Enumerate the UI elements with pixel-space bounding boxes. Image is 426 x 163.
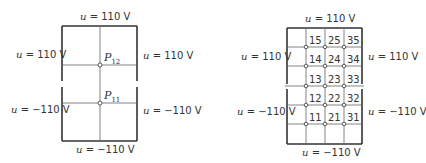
node-label: 32 [347,93,360,104]
node-label: 35 [347,35,360,46]
node-label: 12 [309,93,322,104]
point-p11-marker [98,101,102,105]
right-lower-voltage-label: u = −110 V [368,106,426,117]
left-diagram: P12 P11 u = 110 V u = −110 V u = 110 V u… [0,0,213,163]
node-label: 13 [309,74,322,85]
top-voltage-label: u = 110 V [305,13,355,24]
left-diagram-svg: P12 P11 u = 110 V u = −110 V u = 110 V u… [0,0,213,163]
left-lower-voltage-label: u = −110 V [11,104,70,115]
right-diagram: 15 25 35 14 24 34 13 23 33 12 22 32 11 2… [213,0,426,163]
node-label: 21 [328,112,341,123]
right-diagram-svg: 15 25 35 14 24 34 13 23 33 12 22 32 11 2… [213,0,426,163]
node-label: 25 [328,35,341,46]
grid-node-labels: 15 25 35 14 24 34 13 23 33 12 22 32 11 2… [309,35,360,123]
node-label: 15 [309,35,322,46]
node-label: 24 [328,54,341,65]
node-label: 31 [347,112,360,123]
point-p12-marker [98,63,102,67]
point-p11-label: P11 [103,89,120,104]
node-label: 14 [309,54,322,65]
node-label: 11 [309,112,322,123]
right-lower-voltage-label: u = −110 V [143,105,202,116]
bottom-voltage-label: u = −110 V [76,144,135,155]
node-label: 33 [347,74,360,85]
top-voltage-label: u = 110 V [80,11,130,22]
left-lower-voltage-label: u = −110 V [237,106,296,117]
node-label: 23 [328,74,341,85]
bottom-voltage-label: u = −110 V [302,147,361,158]
node-label: 34 [347,54,360,65]
point-p12-label: P12 [103,51,120,66]
right-upper-voltage-label: u = 110 V [368,51,418,62]
right-upper-voltage-label: u = 110 V [143,50,193,61]
node-label: 22 [328,93,341,104]
left-upper-voltage-label: u = 110 V [16,49,66,60]
left-upper-voltage-label: u = 110 V [241,51,291,62]
